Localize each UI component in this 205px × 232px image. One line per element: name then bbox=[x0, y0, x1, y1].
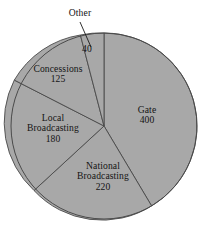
pie-label-other-name: Other bbox=[50, 8, 110, 18]
pie-value-gate: 400 bbox=[123, 115, 171, 125]
pie-label-other: Other bbox=[50, 8, 110, 18]
pie-label-concessions: Concessions 125 bbox=[14, 64, 102, 85]
pie-label-gate: Gate 400 bbox=[123, 105, 171, 126]
pie-value-national-broadcasting: 220 bbox=[55, 182, 151, 192]
pie-label-local-broadcasting: Local Broadcasting 180 bbox=[10, 113, 96, 144]
pie-label-national-broadcasting: National Broadcasting 220 bbox=[55, 161, 151, 192]
pie-value-local-broadcasting: 180 bbox=[10, 134, 96, 144]
pie-label-other-value: 40 bbox=[72, 44, 102, 54]
pie-chart-figure: Other 40 Gate 400 National Broadcasting … bbox=[0, 0, 205, 232]
pie-value-other: 40 bbox=[72, 44, 102, 54]
pie-value-concessions: 125 bbox=[14, 74, 102, 84]
